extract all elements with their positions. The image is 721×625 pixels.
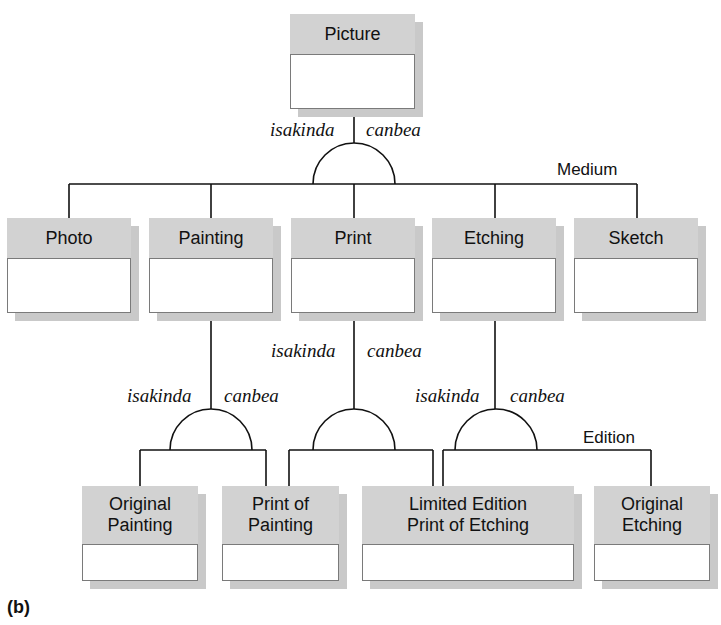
node-label: Painting [149, 218, 273, 259]
relation-label-isakinda: isakinda [270, 119, 334, 141]
node-original-etching: Original Etching [594, 486, 710, 581]
node-print: Print [291, 218, 415, 313]
relation-label-isakinda: isakinda [271, 340, 335, 362]
relation-label-canbea: canbea [367, 340, 422, 362]
node-label: Etching [432, 218, 556, 259]
node-label: Original Painting [82, 486, 198, 545]
node-original-painting: Original Painting [82, 486, 198, 581]
node-sketch: Sketch [574, 218, 698, 313]
node-limited-edition-print-of-etching: Limited Edition Print of Etching [362, 486, 574, 581]
node-label: Limited Edition Print of Etching [362, 486, 574, 545]
generalization-diagram: Picture isakinda canbea Medium Photo Pai… [0, 0, 721, 625]
relation-label-isakinda: isakinda [415, 385, 479, 407]
discriminator-label-medium: Medium [557, 160, 617, 180]
node-painting: Painting [149, 218, 273, 313]
figure-caption: (b) [7, 597, 30, 618]
node-label: Print of Painting [222, 486, 339, 545]
relation-label-isakinda: isakinda [127, 385, 191, 407]
relation-label-canbea: canbea [366, 119, 421, 141]
node-print-of-painting: Print of Painting [222, 486, 339, 581]
discriminator-label-edition: Edition [583, 428, 635, 448]
node-etching: Etching [432, 218, 556, 313]
node-label: Original Etching [594, 486, 710, 545]
node-label: Photo [7, 218, 131, 259]
relation-label-canbea: canbea [510, 385, 565, 407]
node-label: Picture [290, 14, 415, 55]
node-label: Sketch [574, 218, 698, 259]
node-label: Print [291, 218, 415, 259]
relation-label-canbea: canbea [224, 385, 279, 407]
node-picture: Picture [290, 14, 415, 109]
node-photo: Photo [7, 218, 131, 313]
